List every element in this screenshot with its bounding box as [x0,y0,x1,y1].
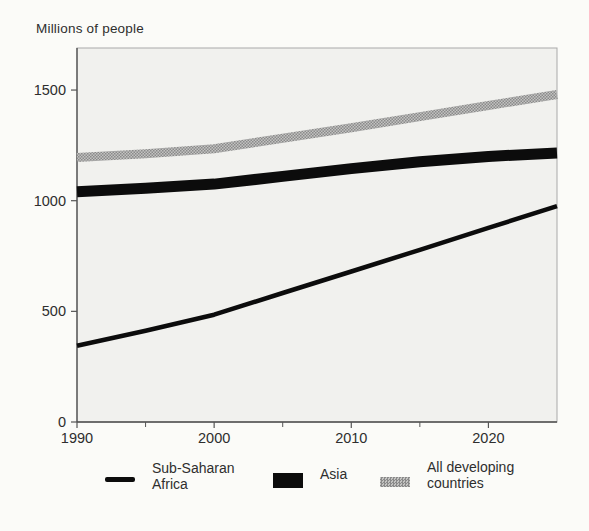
y-tick-label: 500 [42,303,66,319]
legend-swatch-asia-band-icon [273,473,303,488]
x-tick-label: 1990 [61,430,93,446]
legend-label-line1: All developing [427,460,514,476]
legend-swatch-all-developing-countries-halftone-icon [380,477,410,487]
legend-label-line1: Sub-Saharan [152,461,235,477]
legend-label-line1: Asia [320,467,347,483]
y-tick-label: 1000 [34,193,66,209]
line-chart: 0500100015001990200020102020 [0,0,589,531]
chart-title: Millions of people [36,21,144,36]
y-tick-label: 1500 [34,82,66,98]
legend-label-line2: countries [427,476,514,492]
chart-page: 0500100015001990200020102020 Millions of… [0,0,589,531]
x-tick-label: 2010 [335,430,367,446]
x-tick-label: 2020 [472,430,504,446]
x-tick-label: 2000 [198,430,230,446]
legend-label-all-developing-countries: All developing countries [427,460,514,491]
legend-swatch-sub-saharan-africa-line-icon [105,477,135,482]
legend-label-asia: Asia [320,467,347,483]
legend-label-line2: Africa [152,477,235,493]
y-tick-label: 0 [58,414,66,430]
legend-label-sub-saharan-africa: Sub-Saharan Africa [152,461,235,492]
